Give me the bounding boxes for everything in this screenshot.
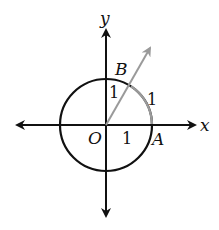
- arc-length-label: 1: [147, 90, 157, 109]
- vertical-radius-label: 1: [109, 83, 119, 102]
- unit-circle-diagram: y x B O A 1 1 1: [0, 0, 219, 230]
- point-a-label: A: [150, 129, 164, 149]
- x-axis-label: x: [200, 115, 210, 135]
- horizontal-radius-label: 1: [122, 129, 132, 148]
- point-b-label: B: [114, 59, 128, 79]
- point-o-label: O: [88, 128, 102, 148]
- y-axis-label: y: [99, 8, 110, 28]
